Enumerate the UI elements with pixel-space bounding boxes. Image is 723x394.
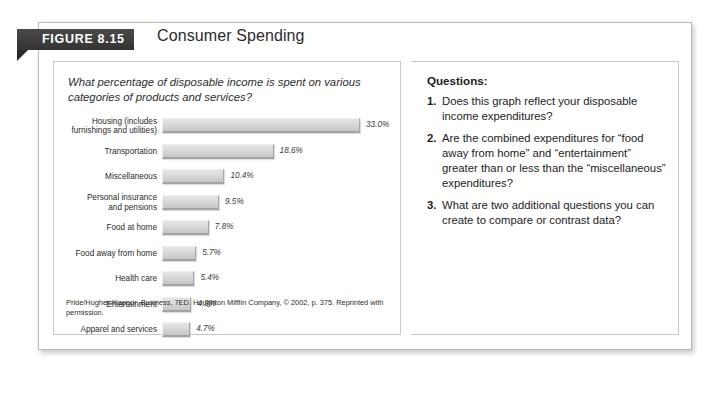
bar-track: 4.7% (162, 320, 402, 340)
questions-list: 1.Does this graph reflect your disposabl… (427, 94, 667, 235)
questions-heading: Questions: (427, 74, 488, 87)
bar-row: Personal insuranceand pensions9.5% (54, 193, 402, 213)
bar-row: Health care5.4% (54, 269, 402, 289)
bar-category-label: Transportation (54, 147, 162, 157)
bar-track: 5.7% (162, 244, 402, 264)
bar-category-label: Housing (includesfurnishings and utiliti… (54, 117, 162, 136)
bar (162, 220, 209, 235)
bar-category-label: Health care (54, 274, 162, 284)
source-prefix: Pride/Hughes/Kapoor. (66, 298, 140, 307)
bar-track: 33.0% (162, 116, 402, 136)
figure-number-tab: FIGURE 8.15 (17, 29, 134, 50)
bar-track: 7.8% (162, 218, 402, 238)
bar-value-label: 4.7% (196, 324, 215, 333)
bar-row: Food at home7.8% (54, 218, 402, 238)
chart-panel: What percentage of disposable income is … (53, 61, 401, 335)
bar (162, 144, 274, 159)
questions-panel: Questions: 1.Does this graph reflect you… (411, 61, 679, 335)
question-text: Are the combined expenditures for “food … (442, 131, 667, 191)
figure-card: FIGURE 8.15 Consumer Spending What perce… (38, 22, 692, 350)
bar-category-label: Apparel and services (54, 325, 162, 335)
bar-value-label: 10.4% (230, 171, 253, 180)
question-text: Does this graph reflect your disposable … (442, 94, 667, 124)
bar-category-label: Food away from home (54, 249, 162, 259)
question-number: 3. (427, 198, 442, 228)
bar-row: Transportation18.6% (54, 142, 402, 162)
bar-row: Apparel and services4.7% (54, 320, 402, 340)
question-item: 3.What are two additional questions you … (427, 198, 667, 228)
bar-value-label: 7.8% (215, 222, 234, 231)
tab-fold-corner-icon (17, 50, 28, 61)
bar (162, 195, 219, 210)
chart-prompt-text: What percentage of disposable income is … (68, 75, 390, 105)
bar-category-label: Personal insuranceand pensions (54, 193, 162, 212)
source-book-title: Business (140, 298, 170, 307)
bar-value-label: 18.6% (280, 146, 303, 155)
bar-category-label: Food at home (54, 223, 162, 233)
question-item: 1.Does this graph reflect your disposabl… (427, 94, 667, 124)
bar (162, 271, 194, 286)
bar (162, 322, 190, 337)
bar-track: 5.4% (162, 269, 402, 289)
bar (162, 246, 196, 261)
bar-track: 18.6% (162, 142, 402, 162)
bar (162, 169, 224, 184)
bar-row: Miscellaneous10.4% (54, 167, 402, 187)
chart-source-citation: Pride/Hughes/Kapoor. Business, 7ED. Houg… (66, 298, 384, 318)
bar-value-label: 5.7% (202, 248, 221, 257)
bar (162, 118, 360, 133)
question-text: What are two additional questions you ca… (442, 198, 667, 228)
bar-category-label: Miscellaneous (54, 172, 162, 182)
figure-tab-label: FIGURE 8.15 (17, 29, 134, 50)
bar-track: 9.5% (162, 193, 402, 213)
bar-row: Housing (includesfurnishings and utiliti… (54, 116, 402, 136)
bar-value-label: 9.5% (225, 197, 244, 206)
page-title: Consumer Spending (157, 27, 305, 45)
question-number: 1. (427, 94, 442, 124)
bar-value-label: 33.0% (366, 120, 389, 129)
question-item: 2.Are the combined expenditures for “foo… (427, 131, 667, 191)
bar-track: 10.4% (162, 167, 402, 187)
bar-value-label: 5.4% (200, 273, 219, 282)
question-number: 2. (427, 131, 442, 191)
bar-row: Food away from home5.7% (54, 244, 402, 264)
